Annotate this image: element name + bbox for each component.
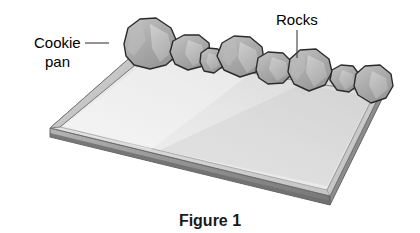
figure-container: Cookie pan Rocks Figure 1 (0, 0, 420, 233)
cookie-pan-label-line2: pan (45, 53, 70, 70)
figure-caption: Figure 1 (179, 212, 241, 229)
cookie-pan-with-rocks-illustration: Cookie pan Rocks Figure 1 (0, 0, 420, 233)
cookie-pan-label-line1: Cookie (34, 34, 81, 51)
rocks-label: Rocks (276, 11, 318, 28)
rock-6 (288, 49, 332, 91)
rock-1 (124, 18, 177, 69)
rock-5 (256, 52, 292, 84)
